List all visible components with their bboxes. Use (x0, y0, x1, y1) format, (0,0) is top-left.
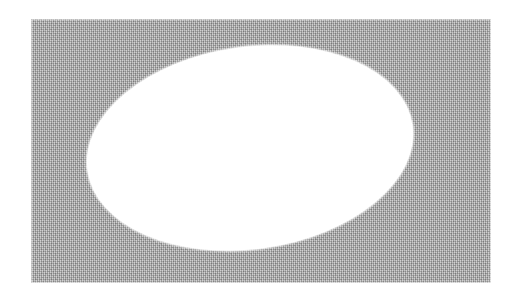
figure-page (0, 0, 521, 300)
scanned-plate (31, 19, 491, 283)
